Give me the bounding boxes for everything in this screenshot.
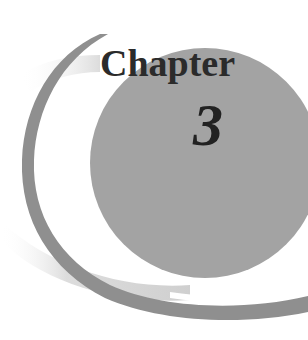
arc-highlight xyxy=(170,280,308,302)
chapter-label: Chapter xyxy=(100,44,235,82)
chapter-title-graphic: Chapter 3 xyxy=(0,0,308,340)
chapter-number: 3 xyxy=(193,95,223,155)
